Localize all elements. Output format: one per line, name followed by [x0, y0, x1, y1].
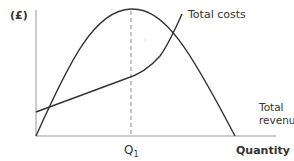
stray-dot	[144, 39, 145, 40]
total-costs-label: Total costs	[188, 9, 246, 21]
total-revenue-label: Total revenue	[259, 101, 294, 127]
q1-tick-label: Q1	[124, 144, 139, 161]
total-revenue-curve	[36, 9, 235, 136]
y-axis-label: (£)	[10, 10, 28, 22]
total-costs-curve	[36, 14, 182, 112]
chart-plot	[0, 0, 294, 161]
x-axis-label: Quantity	[236, 145, 290, 157]
q1-subscript: 1	[133, 150, 138, 159]
